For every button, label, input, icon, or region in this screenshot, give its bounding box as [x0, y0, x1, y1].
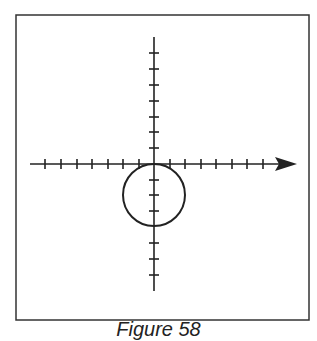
figure-border	[16, 15, 309, 320]
figure-caption: Figure 58	[0, 318, 317, 341]
